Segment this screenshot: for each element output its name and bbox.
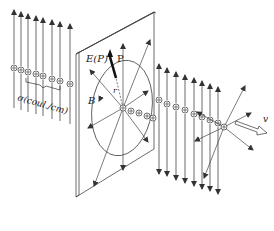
front-charge	[221, 124, 227, 130]
center-charge	[120, 105, 126, 111]
magnetic-field-label: B	[87, 95, 95, 106]
velocity-label: v	[263, 114, 268, 124]
right-field-lines	[159, 64, 218, 194]
moving-line-charge-diagram: σ(coul./cm) r E(P) P B	[0, 0, 274, 231]
point-label: P	[117, 53, 124, 64]
left-charges	[11, 65, 73, 87]
electric-field-label: E(P)	[85, 53, 108, 64]
front-radial-field-lines	[195, 86, 253, 178]
